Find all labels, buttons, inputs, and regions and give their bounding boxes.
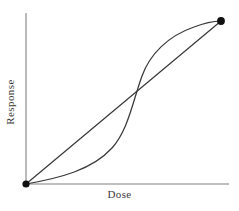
y-axis-label-container: Response xyxy=(0,0,20,211)
dose-response-plot xyxy=(0,0,239,211)
upper-right-marker xyxy=(217,17,225,25)
linear-response-line xyxy=(26,21,221,184)
dose-response-figure: Response Dose xyxy=(0,0,239,211)
x-axis-label: Dose xyxy=(0,188,239,200)
y-axis-label: Response xyxy=(4,57,16,147)
origin-marker xyxy=(22,180,29,187)
